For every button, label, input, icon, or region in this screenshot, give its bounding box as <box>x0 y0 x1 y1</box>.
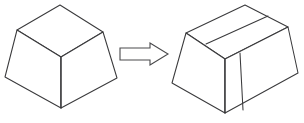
right-solid-grooved-truncated-pyramid <box>172 5 298 113</box>
transformation-arrow <box>120 43 168 65</box>
transformation-figure <box>0 0 304 123</box>
left-solid-truncated-pyramid <box>5 5 117 108</box>
figure-canvas <box>0 0 304 123</box>
arrow-right-icon <box>120 43 168 65</box>
